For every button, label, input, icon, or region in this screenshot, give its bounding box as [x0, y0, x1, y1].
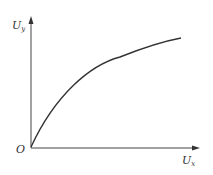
- axes-and-curve: [0, 0, 213, 175]
- x-axis-label: Ux: [182, 155, 195, 168]
- curve: [31, 38, 181, 147]
- y-axis-label: Uy: [12, 20, 25, 33]
- diagram: Uy O Ux: [0, 0, 213, 175]
- x-axis-arrow-icon: [192, 146, 200, 151]
- y-axis-arrow-icon: [29, 16, 34, 24]
- origin-label: O: [16, 144, 25, 155]
